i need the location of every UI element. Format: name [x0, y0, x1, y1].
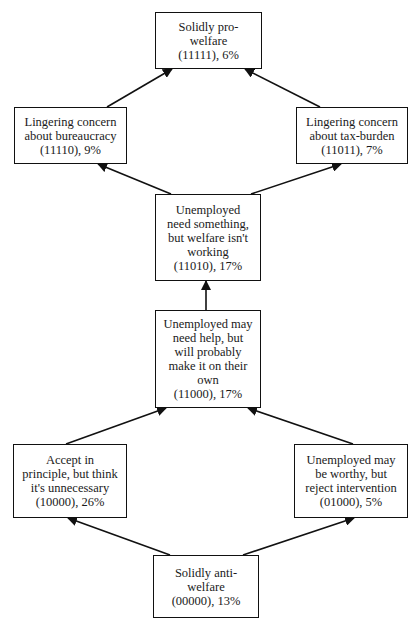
node-text-line: own: [197, 373, 219, 387]
arrow-01000-to-11000: [248, 408, 353, 444]
node-text-line: principle, but think: [22, 467, 117, 481]
node-text-line: Solidly anti-: [175, 566, 237, 580]
node-text-line: Lingering concern: [306, 115, 398, 129]
arrow-11011-to-11111: [245, 69, 320, 107]
arrow-11010-to-11110: [98, 164, 171, 194]
welfare-attitudes-diagram: Solidly pro- welfare (11111), 6% Lingeri…: [0, 0, 420, 629]
node-text-line: will probably: [174, 345, 241, 359]
node-lingering-concern-tax-burden: Lingering concern about tax-burden (1101…: [296, 107, 408, 164]
node-text-line: be worthy, but: [315, 467, 387, 481]
arrow-00000-to-01000: [243, 518, 354, 555]
node-text-line: but welfare isn't: [168, 231, 248, 245]
node-code-percent: (11110), 9%: [40, 143, 101, 157]
arrow-11010-to-11011: [251, 164, 341, 194]
node-text-line: it's unnecessary: [31, 481, 109, 495]
node-text-line: Lingering concern: [25, 115, 117, 129]
arrow-00000-to-10000: [68, 518, 170, 555]
node-code-percent: (00000), 13%: [172, 594, 241, 608]
node-code-percent: (11010), 17%: [174, 259, 242, 273]
node-text-line: reject intervention: [305, 481, 396, 495]
node-code-percent: (11000), 17%: [174, 387, 242, 401]
node-solidly-anti-welfare: Solidly anti- welfare (00000), 13%: [153, 555, 259, 618]
node-solidly-pro-welfare: Solidly pro- welfare (11111), 6%: [155, 12, 262, 69]
arrow-11110-to-11111: [107, 69, 172, 107]
node-text-line: Accept in: [46, 453, 94, 467]
node-text-line: need help, but: [173, 331, 243, 345]
node-code-percent: (01000), 5%: [320, 495, 383, 509]
node-unemployed-may-need-help: Unemployed may need help, but will proba…: [155, 310, 261, 408]
node-text-line: about bureaucracy: [25, 129, 117, 143]
node-text-line: Unemployed may: [163, 317, 252, 331]
node-text-line: make it on their: [169, 359, 248, 373]
node-code-percent: (11111), 6%: [178, 48, 239, 62]
node-unemployed-may-be-worthy: Unemployed may be worthy, but reject int…: [294, 444, 408, 518]
node-accept-in-principle: Accept in principle, but think it's unne…: [13, 444, 127, 518]
node-code-percent: (11011), 7%: [321, 143, 383, 157]
node-text-line: welfare: [187, 580, 224, 594]
node-text-line: working: [187, 245, 229, 259]
node-code-percent: (10000), 26%: [36, 495, 105, 509]
node-text-line: Unemployed: [176, 203, 241, 217]
node-unemployed-need-something: Unemployed need something, but welfare i…: [155, 194, 261, 281]
arrow-10000-to-11000: [66, 408, 166, 444]
node-text-line: need something,: [167, 217, 249, 231]
node-lingering-concern-bureaucracy: Lingering concern about bureaucracy (111…: [14, 107, 127, 164]
node-text-line: about tax-burden: [309, 129, 394, 143]
node-text-line: Unemployed may: [306, 453, 395, 467]
node-text-line: Solidly pro-: [178, 20, 238, 34]
node-text-line: welfare: [190, 34, 227, 48]
